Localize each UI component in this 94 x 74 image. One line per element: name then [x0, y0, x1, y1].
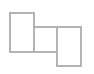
diagram-canvas	[0, 0, 94, 74]
rectangle-left[interactable]	[10, 13, 34, 52]
rectangle-middle[interactable]	[34, 27, 57, 52]
rectangles-diagram	[0, 0, 94, 74]
rectangle-right[interactable]	[57, 27, 81, 66]
